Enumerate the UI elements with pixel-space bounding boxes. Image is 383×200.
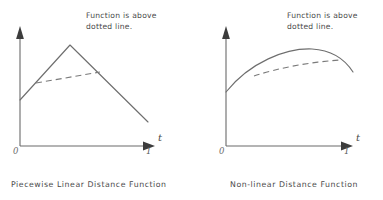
dotted-chord-right [254, 60, 340, 76]
x-axis-right [226, 142, 353, 151]
dotted-chord-left [36, 72, 100, 83]
y-axis-right [222, 26, 230, 146]
piecewise-linear-curve [20, 45, 148, 122]
y-axis-left [16, 26, 24, 146]
non-linear-curve [226, 49, 353, 92]
x-axis-label-left: t [158, 132, 162, 143]
x-axis-tick-label-left: 1 [146, 146, 151, 156]
figure-root: Function is above dotted line. 0 1 t Pie… [0, 0, 383, 200]
x-axis-label-right: t [356, 132, 360, 143]
annotation-line1-right: Function is above [287, 11, 358, 20]
panel-piecewise-linear: Function is above dotted line. 0 1 t Pie… [0, 0, 191, 200]
panel-non-linear: Function is above dotted line. 0 1 t Non… [192, 0, 383, 200]
caption-piecewise-linear: Piecewise Linear Distance Function [11, 180, 167, 189]
annotation-line2-right: dotted line. [287, 22, 358, 33]
plot-svg-left [0, 0, 191, 200]
x-axis-left [20, 142, 155, 151]
annotation-text-right: Function is above dotted line. [287, 11, 358, 32]
origin-label-right: 0 [219, 146, 224, 156]
caption-non-linear: Non-linear Distance Function [230, 180, 358, 189]
x-axis-tick-label-right: 1 [344, 146, 349, 156]
origin-label-left: 0 [13, 146, 18, 156]
